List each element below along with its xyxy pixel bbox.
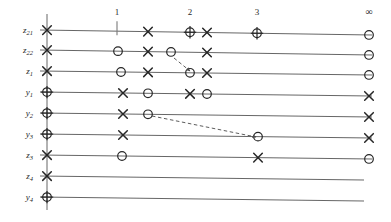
row-y1 [40,92,372,96]
row-label-subscript: 1 [30,70,33,77]
column-label-1: 1 [115,7,120,17]
row-label-y3: y3 [26,129,33,139]
column-label-3: 3 [255,7,260,17]
row-line [40,197,364,201]
row-label-subscript: 4 [30,196,33,203]
marker-oplus[interactable] [251,27,263,39]
row-label-z21: z21 [23,25,33,35]
row-label-subscript: 3 [30,133,33,140]
row-label-subscript: 22 [27,49,34,56]
marker-oplus[interactable] [41,128,53,140]
row-label-y4: y4 [26,192,33,202]
row-line [40,176,364,180]
row-label-base: z [23,25,27,35]
row-label-subscript: 1 [30,91,33,98]
row-line [40,134,372,138]
row-label-z4: z4 [26,171,33,181]
row-y4 [40,197,364,201]
row-label-subscript: 21 [27,29,34,36]
row-label-subscript: 2 [30,112,33,119]
row-line [40,155,372,159]
row-line [40,92,372,96]
row-label-z3: z3 [26,150,33,160]
column-label-2: 2 [188,7,193,17]
lattice-diagram: z21z22z1y1y2y3z3z4y4123∞ [0,0,391,222]
row-label-base: z [23,45,27,55]
row-label-subscript: 3 [30,154,33,161]
marker-oplus[interactable] [41,107,53,119]
marker-oplus[interactable] [41,191,53,203]
row-label-z1: z1 [26,66,33,76]
row-y2 [40,113,372,117]
row-label-y2: y2 [26,108,33,118]
row-z3 [40,155,372,159]
row-label-z22: z22 [23,45,33,55]
row-z4 [40,176,364,180]
diagram-canvas [0,0,391,222]
row-label-y1: y1 [26,87,33,97]
marker-oplus[interactable] [184,26,196,38]
row-label-base: z [26,150,30,160]
row-label-base: z [26,66,30,76]
row-label-subscript: 4 [30,175,33,182]
arrow-y2-to-y3 [152,116,256,137]
marker-oplus[interactable] [41,86,53,98]
column-label-infinity: ∞ [365,6,372,17]
row-y3 [40,134,372,138]
row-label-base: z [26,171,30,181]
row-line [40,113,372,117]
